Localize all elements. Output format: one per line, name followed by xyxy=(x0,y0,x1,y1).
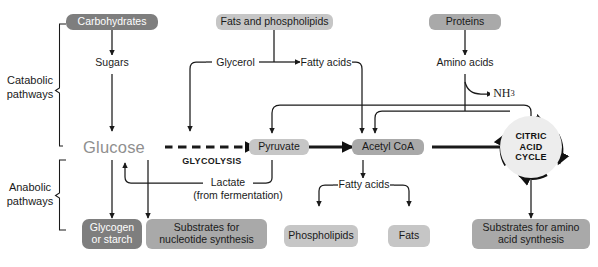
pyruvate-box: Pyruvate xyxy=(249,139,309,155)
cycle-line-3: CYCLE xyxy=(515,152,547,163)
catabolic-bracket xyxy=(56,24,67,146)
cycle-line-2: ACID xyxy=(520,142,543,153)
amino-acids-label: Amino acids xyxy=(430,55,500,70)
path-bus-to-acetylcoa xyxy=(375,111,510,133)
nucleotide-substrates-box: Substrates for nucleotide synthesis xyxy=(146,219,267,249)
path-fattyacids-bottom-right xyxy=(394,185,409,206)
lactate-source-note: (from fermentation) xyxy=(186,189,290,203)
anabolic-line-1: Anabolic xyxy=(9,181,51,195)
glycogen-line-2: or starch xyxy=(92,234,133,246)
fats-and-phospholipids-box: Fats and phospholipids xyxy=(216,14,333,30)
citric-acid-cycle-node: CITRIC ACID CYCLE xyxy=(500,116,562,178)
glucose-label: Glucose xyxy=(63,136,165,158)
anabolic-pathways-label: Anabolic pathways xyxy=(6,177,54,213)
carbohydrates-box: Carbohydrates xyxy=(66,14,158,30)
phospholipids-box: Phospholipids xyxy=(284,225,358,247)
metabolic-pathways-diagram: Catabolic pathways Anabolic pathways Car… xyxy=(0,0,598,267)
nucleotide-line-2: nucleotide synthesis xyxy=(159,234,254,246)
anabolic-line-2: pathways xyxy=(7,195,53,209)
glycogen-or-starch-box: Glycogen or starch xyxy=(82,219,142,249)
sugars-label: Sugars xyxy=(88,55,136,70)
amino-substrates-line-2: acid synthesis xyxy=(498,234,564,246)
path-fattyacids-bottom-left xyxy=(319,185,333,206)
catabolic-line-2: pathways xyxy=(7,88,53,102)
amino-acid-substrates-box: Substrates for amino acid synthesis xyxy=(472,219,590,249)
anabolic-bracket xyxy=(56,160,67,230)
glycerol-label: Glycerol xyxy=(212,55,259,70)
fatty-acids-top-label: Fatty acids xyxy=(300,55,352,70)
glycolysis-label: GLYCOLYSIS xyxy=(170,155,254,168)
fatty-acids-bottom-label: Fatty acids xyxy=(338,178,390,192)
catabolic-line-1: Catabolic xyxy=(7,74,53,88)
path-pyruvate-to-lactate xyxy=(252,160,272,183)
arrow-aminoacids-to-ammonia xyxy=(465,82,492,94)
proteins-box: Proteins xyxy=(429,14,501,30)
cycle-line-1: CITRIC xyxy=(515,131,546,142)
fats-box: Fats xyxy=(388,225,430,247)
lactate-label: Lactate xyxy=(203,176,253,190)
ammonia-label: NH3 xyxy=(490,86,518,102)
catabolic-pathways-label: Catabolic pathways xyxy=(6,70,54,106)
acetyl-coa-box: Acetyl CoA xyxy=(352,139,424,155)
path-bus-left-to-pyruvate xyxy=(272,105,465,133)
ammonia-subscript: 3 xyxy=(511,89,515,99)
arrow-glycerol-to-glycolysis xyxy=(190,62,206,131)
ammonia-formula: NH xyxy=(493,87,510,100)
